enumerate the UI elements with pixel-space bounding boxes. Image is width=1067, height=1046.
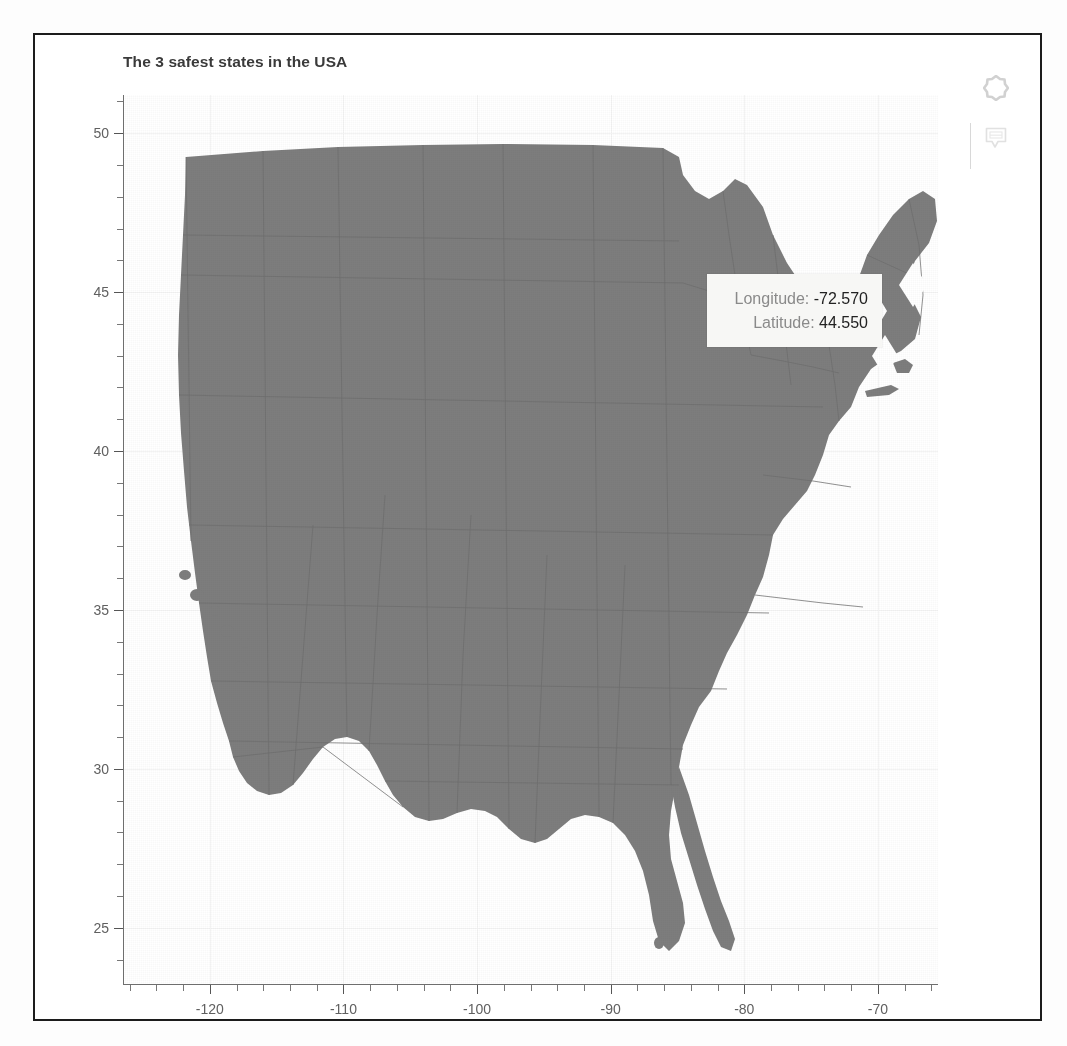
y-tick-minor bbox=[117, 515, 123, 516]
y-axis bbox=[123, 95, 124, 985]
y-tick-label: 40 bbox=[93, 443, 109, 459]
x-tick-minor bbox=[691, 985, 692, 991]
y-tick bbox=[114, 769, 123, 770]
y-tick-minor bbox=[117, 197, 123, 198]
x-tick-minor bbox=[397, 985, 398, 991]
plot-frame: The 3 safest states in the USA bbox=[33, 33, 1042, 1021]
y-tick-minor bbox=[117, 260, 123, 261]
x-tick bbox=[210, 985, 211, 994]
y-tick-minor bbox=[117, 419, 123, 420]
y-tick-label: 45 bbox=[93, 284, 109, 300]
x-tick-minor bbox=[450, 985, 451, 991]
y-tick-minor bbox=[117, 546, 123, 547]
tooltip-latitude-label: Latitude: bbox=[753, 314, 814, 331]
usa-map-svg bbox=[123, 95, 938, 985]
x-tick bbox=[611, 985, 612, 994]
y-tick-minor bbox=[117, 832, 123, 833]
y-tick bbox=[114, 928, 123, 929]
comment-icon[interactable] bbox=[979, 121, 1013, 155]
y-tick-minor bbox=[117, 801, 123, 802]
y-tick-minor bbox=[117, 674, 123, 675]
x-tick-minor bbox=[317, 985, 318, 991]
x-tick bbox=[744, 985, 745, 994]
x-tick-label: -110 bbox=[330, 1001, 357, 1017]
x-tick-minor bbox=[664, 985, 665, 991]
x-tick-minor bbox=[370, 985, 371, 991]
x-tick-minor bbox=[424, 985, 425, 991]
x-tick-label: -120 bbox=[196, 1001, 224, 1017]
x-tick-label: -100 bbox=[463, 1001, 491, 1017]
y-tick bbox=[114, 451, 123, 452]
x-tick-minor bbox=[637, 985, 638, 991]
tooltip-longitude-value: -72.570 bbox=[814, 290, 868, 307]
x-tick-minor bbox=[237, 985, 238, 991]
comment-bubble-glyph bbox=[984, 126, 1008, 150]
x-tick-label: -80 bbox=[734, 1001, 754, 1017]
x-tick-minor bbox=[798, 985, 799, 991]
usa-landmass bbox=[178, 144, 937, 951]
y-tick-minor bbox=[117, 101, 123, 102]
x-tick-minor bbox=[931, 985, 932, 991]
modebar[interactable] bbox=[974, 71, 1018, 155]
tooltip-longitude-row: Longitude: -72.570 bbox=[735, 287, 868, 311]
y-tick-minor bbox=[117, 387, 123, 388]
x-tick-minor bbox=[156, 985, 157, 991]
y-tick bbox=[114, 133, 123, 134]
y-tick-minor bbox=[117, 483, 123, 484]
x-tick-minor bbox=[771, 985, 772, 991]
y-tick-minor bbox=[117, 356, 123, 357]
tooltip-latitude-row: Latitude: 44.550 bbox=[753, 311, 868, 335]
y-tick bbox=[114, 610, 123, 611]
y-tick-label: 50 bbox=[93, 125, 109, 141]
long-island bbox=[865, 385, 899, 397]
y-tick-minor bbox=[117, 896, 123, 897]
x-tick-minor bbox=[183, 985, 184, 991]
y-tick-label: 30 bbox=[93, 761, 109, 777]
contiguous-usa-shape bbox=[178, 144, 937, 951]
x-tick-minor bbox=[851, 985, 852, 991]
y-tick-minor bbox=[117, 737, 123, 738]
x-tick-minor bbox=[824, 985, 825, 991]
x-tick bbox=[477, 985, 478, 994]
cape-cod bbox=[893, 359, 913, 373]
tooltip-longitude-label: Longitude: bbox=[735, 290, 810, 307]
x-tick-minor bbox=[584, 985, 585, 991]
modebar-divider bbox=[970, 123, 971, 169]
y-tick-minor bbox=[117, 960, 123, 961]
y-tick bbox=[114, 292, 123, 293]
x-tick-label: -70 bbox=[868, 1001, 888, 1017]
x-tick-minor bbox=[905, 985, 906, 991]
map-layer[interactable] bbox=[123, 95, 938, 985]
x-tick-minor bbox=[718, 985, 719, 991]
tooltip-latitude-value: 44.550 bbox=[819, 314, 868, 331]
y-tick-label: 25 bbox=[93, 920, 109, 936]
x-tick-minor bbox=[290, 985, 291, 991]
y-tick-minor bbox=[117, 578, 123, 579]
x-tick bbox=[878, 985, 879, 994]
page-title: The 3 safest states in the USA bbox=[123, 53, 347, 71]
plot-area[interactable]: 504540353025 -120-110-100-90-80-70 bbox=[123, 95, 938, 985]
y-tick-minor bbox=[117, 165, 123, 166]
plotly-logo-icon[interactable] bbox=[979, 71, 1013, 105]
y-tick-minor bbox=[117, 229, 123, 230]
x-tick-label: -90 bbox=[601, 1001, 621, 1017]
x-tick-minor bbox=[531, 985, 532, 991]
x-tick-minor bbox=[130, 985, 131, 991]
hover-tooltip: Longitude: -72.570 Latitude: 44.550 bbox=[707, 274, 882, 347]
y-tick-minor bbox=[117, 642, 123, 643]
y-tick-minor bbox=[117, 324, 123, 325]
key-west-island bbox=[654, 937, 664, 949]
x-tick bbox=[343, 985, 344, 994]
plotly-logo-glyph bbox=[983, 75, 1009, 101]
x-tick-minor bbox=[557, 985, 558, 991]
x-tick-minor bbox=[504, 985, 505, 991]
y-tick-minor bbox=[117, 864, 123, 865]
y-tick-label: 35 bbox=[93, 602, 109, 618]
y-tick-minor bbox=[117, 705, 123, 706]
x-tick-minor bbox=[263, 985, 264, 991]
